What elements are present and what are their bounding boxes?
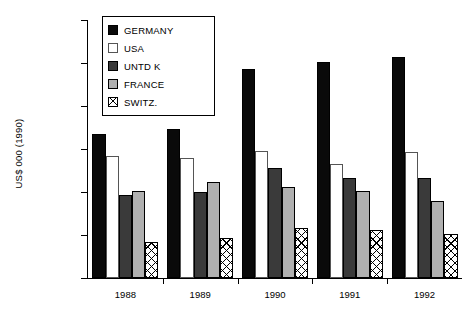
bar-germany-1989 [167, 129, 180, 278]
x-axis-group-separator [238, 278, 239, 284]
bar-switz-1992 [444, 234, 457, 278]
x-axis-label-1988: 1988 [90, 289, 160, 300]
x-axis-label-1990: 1990 [240, 289, 310, 300]
bar-untdk-1992 [418, 178, 431, 278]
y-tick-mark [81, 278, 87, 279]
legend-item-france[interactable]: FRANCE [108, 75, 209, 93]
bar-france-1989 [207, 182, 220, 278]
bar-untdk-1991 [343, 178, 356, 278]
y-tick-mark [81, 192, 87, 193]
x-axis-label-1991: 1991 [315, 289, 385, 300]
bar-untdk-1988 [119, 195, 132, 278]
y-tick-mark [81, 149, 87, 150]
bar-france-1992 [431, 201, 444, 278]
chart-legend: GERMANYUSAUNTD KFRANCESWITZ. [102, 16, 215, 116]
bar-usa-1992 [405, 152, 418, 278]
bar-usa-1991 [330, 164, 343, 278]
bar-switz-1991 [370, 230, 383, 278]
bar-usa-1990 [255, 151, 268, 278]
bar-france-1988 [132, 191, 145, 278]
bar-switz-1990 [295, 228, 308, 278]
legend-item-usa[interactable]: USA [108, 39, 209, 57]
bar-germany-1988 [92, 134, 105, 278]
legend-item-germany[interactable]: GERMANY [108, 21, 209, 39]
legend-item-untd-k[interactable]: UNTD K [108, 57, 209, 75]
legend-swatch-icon [108, 79, 118, 89]
legend-label: GERMANY [124, 25, 173, 36]
legend-label: SWITZ. [124, 97, 157, 108]
x-axis-label-1992: 1992 [390, 289, 460, 300]
bar-france-1990 [282, 187, 295, 278]
y-tick-mark [81, 20, 87, 21]
x-axis-group-separator [163, 278, 164, 284]
legend-swatch-icon [108, 25, 118, 35]
x-axis-group-separator [312, 278, 313, 284]
y-axis-title: US$ 000 (1990) [13, 74, 24, 234]
x-axis-group-separator [387, 278, 388, 284]
x-axis-label-1989: 1989 [165, 289, 235, 300]
legend-swatch-icon [108, 97, 118, 107]
y-tick-mark [81, 63, 87, 64]
bar-france-1991 [356, 191, 369, 278]
y-tick-mark [81, 106, 87, 107]
legend-label: USA [124, 43, 144, 54]
legend-label: UNTD K [124, 61, 161, 72]
bar-untdk-1990 [268, 168, 281, 278]
legend-label: FRANCE [124, 79, 164, 90]
bar-usa-1988 [106, 156, 119, 278]
legend-swatch-icon [108, 61, 118, 71]
bar-switz-1989 [220, 238, 233, 278]
bar-germany-1990 [242, 69, 255, 278]
bar-germany-1992 [392, 57, 405, 278]
x-axis-line [87, 278, 462, 279]
legend-swatch-icon [108, 43, 118, 53]
bar-germany-1991 [317, 62, 330, 278]
bar-switz-1988 [145, 242, 158, 278]
bar-untdk-1989 [194, 192, 207, 278]
bar-chart: US$ 000 (1990) 0100 000200 000300 000400… [0, 0, 470, 316]
y-tick-mark [81, 235, 87, 236]
legend-item-switz[interactable]: SWITZ. [108, 93, 209, 111]
bar-usa-1989 [180, 158, 193, 278]
